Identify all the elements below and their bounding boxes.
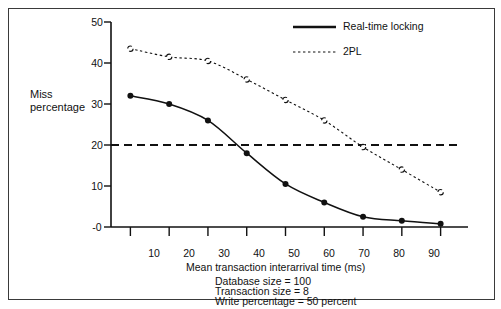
x-tick-label-90: 90 <box>422 247 446 259</box>
marker-real-time-locking-50 <box>283 181 289 187</box>
y-axis-label-line-2: percentage <box>30 101 85 114</box>
legend-lines <box>293 27 336 52</box>
x-tick-label-40: 40 <box>247 247 271 259</box>
marker-2pl-90 <box>438 189 443 194</box>
data-series-group <box>127 46 443 227</box>
marker-2pl-30 <box>205 58 210 63</box>
x-tick-label-80: 80 <box>387 247 411 259</box>
marker-2pl-20 <box>166 54 171 59</box>
marker-real-time-locking-80 <box>399 218 405 224</box>
marker-real-time-locking-90 <box>438 221 444 227</box>
marker-real-time-locking-70 <box>360 214 366 220</box>
legend-label-real-time-locking: Real-time locking <box>343 20 424 32</box>
marker-2pl-70 <box>360 144 365 149</box>
x-tick-label-30: 30 <box>212 247 236 259</box>
marker-real-time-locking-60 <box>321 199 327 205</box>
x-tick-label-50: 50 <box>282 247 306 259</box>
caption-line-write-percentage: Write percentage = 50 percent <box>215 295 356 307</box>
marker-real-time-locking-30 <box>205 117 211 123</box>
marker-2pl-80 <box>399 167 404 172</box>
y-tick-label-10: 10 <box>86 180 108 192</box>
x-tick-label-20: 20 <box>177 247 201 259</box>
marker-real-time-locking-40 <box>244 150 250 156</box>
marker-2pl-60 <box>322 118 327 123</box>
marker-2pl-40 <box>244 77 249 82</box>
series-line-real-time-locking <box>130 96 440 224</box>
x-axis-title: Mean transaction interarrival time (ms) <box>186 261 365 273</box>
x-tick-label-70: 70 <box>352 247 376 259</box>
axes <box>104 22 468 236</box>
x-tick-label-10: 10 <box>142 247 166 259</box>
marker-2pl-10 <box>128 46 133 51</box>
y-axis-label-line-1: Miss <box>30 88 53 101</box>
x-tick-label-60: 60 <box>317 247 341 259</box>
y-tick-label-50: 50 <box>86 16 108 28</box>
marker-real-time-locking-10 <box>127 93 133 99</box>
legend-label-2pl: 2PL <box>343 45 362 57</box>
marker-real-time-locking-20 <box>166 101 172 107</box>
y-tick-label-0: -0 <box>86 221 108 233</box>
y-tick-label-20: 20 <box>86 139 108 151</box>
y-tick-label-30: 30 <box>86 98 108 110</box>
y-tick-label-40: 40 <box>86 57 108 69</box>
series-line-2pl <box>130 49 440 193</box>
marker-2pl-50 <box>283 97 288 102</box>
